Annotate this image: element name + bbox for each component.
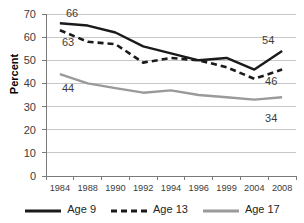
data-label-age-9-2008: 54 [262, 35, 274, 46]
chart-legend: Age 9Age 13Age 17 [0, 198, 304, 220]
legend-label: Age 13 [153, 203, 188, 215]
legend-item-age-13[interactable]: Age 13 [110, 203, 188, 215]
legend-item-age-17[interactable]: Age 17 [202, 203, 280, 215]
series-lines [60, 23, 282, 99]
legend-item-age-9[interactable]: Age 9 [24, 203, 96, 215]
legend-swatch-age-9-icon [24, 203, 62, 215]
percent-by-age-line-chart: Percent 010203040506070 1984198819901992… [0, 0, 304, 223]
data-label-age-17-1984: 44 [62, 83, 74, 94]
series-line-age-9 [60, 23, 282, 69]
legend-swatch-age-17-icon [202, 203, 240, 215]
gridlines [46, 14, 296, 153]
legend-label: Age 17 [245, 203, 280, 215]
legend-label: Age 9 [67, 203, 96, 215]
legend-swatch-age-13-icon [110, 203, 148, 215]
plot-area [0, 0, 304, 223]
data-label-age-9-1984: 66 [66, 8, 78, 19]
series-line-age-17 [60, 74, 282, 99]
data-label-age-17-2008: 34 [265, 113, 277, 124]
data-label-age-13-2008: 46 [265, 76, 277, 87]
x-axis-tick-marks [46, 176, 296, 180]
data-label-age-13-1984: 63 [62, 37, 74, 48]
